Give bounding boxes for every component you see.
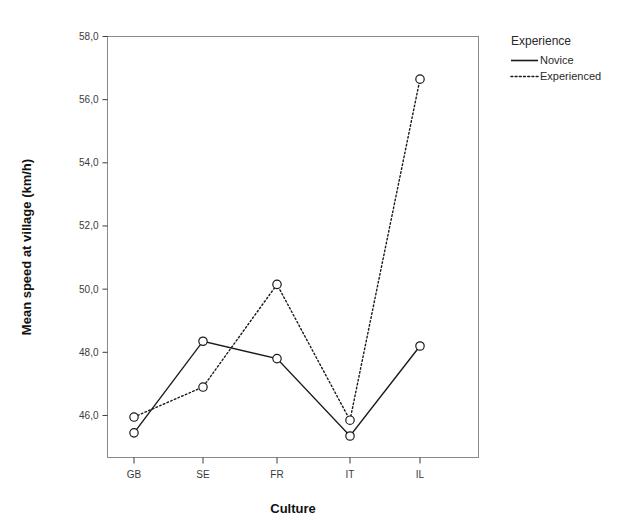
spss-line-chart: 58,056,054,052,050,048,046,0 GBSEFRITIL … bbox=[0, 0, 620, 532]
data-point-marker bbox=[416, 342, 424, 350]
x-tick-label: GB bbox=[127, 469, 142, 480]
data-point-marker bbox=[346, 416, 354, 424]
x-tick-label: IL bbox=[416, 469, 425, 480]
data-point-marker bbox=[130, 429, 138, 437]
x-tick-label: SE bbox=[196, 469, 210, 480]
y-tick-label: 48,0 bbox=[79, 347, 99, 358]
y-axis-title: Mean speed at village (km/h) bbox=[19, 159, 34, 335]
x-tick-label: FR bbox=[270, 469, 283, 480]
chart-canvas: 58,056,054,052,050,048,046,0 GBSEFRITIL … bbox=[0, 0, 620, 532]
x-axis-ticks: GBSEFRITIL bbox=[127, 458, 425, 480]
y-tick-label: 52,0 bbox=[79, 220, 99, 231]
chart-legend: Experience NoviceExperienced bbox=[511, 34, 601, 82]
data-point-marker bbox=[199, 337, 207, 345]
y-tick-label: 50,0 bbox=[79, 284, 99, 295]
legend-title: Experience bbox=[511, 34, 571, 48]
data-point-marker bbox=[130, 413, 138, 421]
y-tick-label: 54,0 bbox=[79, 157, 99, 168]
data-point-marker bbox=[199, 383, 207, 391]
y-tick-label: 56,0 bbox=[79, 94, 99, 105]
data-point-marker bbox=[273, 354, 281, 362]
data-point-marker bbox=[273, 280, 281, 288]
legend-entries: NoviceExperienced bbox=[511, 54, 601, 82]
y-axis-ticks: 58,056,054,052,050,048,046,0 bbox=[79, 31, 107, 421]
y-tick-label: 58,0 bbox=[79, 31, 99, 42]
x-tick-label: IT bbox=[346, 469, 355, 480]
legend-item-experienced: Experienced bbox=[540, 70, 601, 82]
x-axis-title: Culture bbox=[270, 501, 316, 516]
data-point-marker bbox=[416, 75, 424, 83]
legend-item-novice: Novice bbox=[540, 54, 574, 66]
y-tick-label: 46,0 bbox=[79, 410, 99, 421]
data-point-marker bbox=[346, 432, 354, 440]
